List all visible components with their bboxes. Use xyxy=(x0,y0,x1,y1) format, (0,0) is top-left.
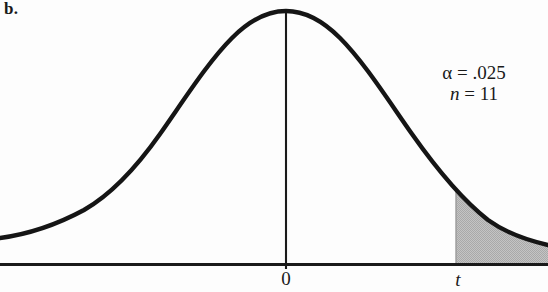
t-critical-tick-label: t xyxy=(438,270,478,289)
sample-size-relation: = xyxy=(459,83,479,104)
alpha-value: .025 xyxy=(472,62,505,83)
sample-size-annotation: n = 11 xyxy=(418,83,530,104)
sample-size-value: 11 xyxy=(480,83,498,104)
alpha-annotation: α = .025 xyxy=(418,62,530,83)
alpha-symbol: α xyxy=(442,62,452,83)
origin-tick-label: 0 xyxy=(266,269,306,288)
distribution-plot xyxy=(0,0,548,292)
parameter-annotations: α = .025 n = 11 xyxy=(418,62,530,105)
t-distribution-figure: b. α = .025 n = 11 0 t xyxy=(0,0,548,292)
alpha-relation: = xyxy=(452,62,472,83)
